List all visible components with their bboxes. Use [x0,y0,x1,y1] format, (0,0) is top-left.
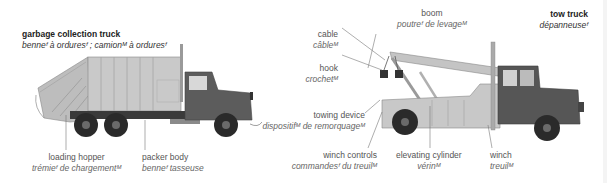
page-edge [603,0,607,183]
hook-fr: crochetᴹ [305,74,338,85]
label-winch-controls: winch controls commandesᶠ du treuilᴹ [292,150,377,172]
winch-controls-fr: commandesᶠ du treuilᴹ [292,161,377,172]
boom-en: boom [397,8,467,19]
garbage-truck-title-en: garbage collection truck [22,29,167,40]
winch-en: winch [490,150,513,161]
label-cable: cable câbleᴹ [313,29,338,51]
elevating-cylinder-en: elevating cylinder [396,150,462,161]
tow-truck-illustration [380,42,584,141]
cable-fr: câbleᴹ [313,40,338,51]
boom-fr: poutreᶠ de levageᴹ [397,19,467,30]
label-winch: winch treuilᴹ [490,150,513,172]
towing-device-en: towing device [262,110,365,121]
loading-hopper-en: loading hopper [32,152,121,163]
towing-device-fr: dispositifᴹ de remorquageᴹ [262,121,365,132]
garbage-truck-title-fr: benneᶠ à orduresᶠ ; camionᴹ à orduresᶠ [22,40,167,51]
label-packer-body: packer body benneᶠ tasseuse [142,152,204,174]
tow-truck-title: tow truck dépanneuseᶠ [539,9,588,31]
garbage-truck-illustration [36,44,262,137]
label-boom: boom poutreᶠ de levageᴹ [397,8,467,30]
label-towing-device: towing device dispositifᴹ de remorquageᴹ [262,110,365,132]
garbage-truck-title: garbage collection truck benneᶠ à ordure… [22,29,167,51]
label-elevating-cylinder: elevating cylinder vérinᴹ [396,150,462,172]
elevating-cylinder-fr: vérinᴹ [396,161,462,172]
cable-en: cable [313,29,338,40]
packer-body-fr: benneᶠ tasseuse [142,163,204,174]
tow-truck-title-en: tow truck [539,9,588,20]
hook-en: hook [305,63,338,74]
packer-body-en: packer body [142,152,204,163]
label-hook: hook crochetᴹ [305,63,338,85]
label-loading-hopper: loading hopper trémieᶠ de chargementᴹ [32,152,121,174]
loading-hopper-fr: trémieᶠ de chargementᴹ [32,163,121,174]
winch-controls-en: winch controls [292,150,377,161]
winch-fr: treuilᴹ [490,161,513,172]
tow-truck-title-fr: dépanneuseᶠ [539,20,588,31]
